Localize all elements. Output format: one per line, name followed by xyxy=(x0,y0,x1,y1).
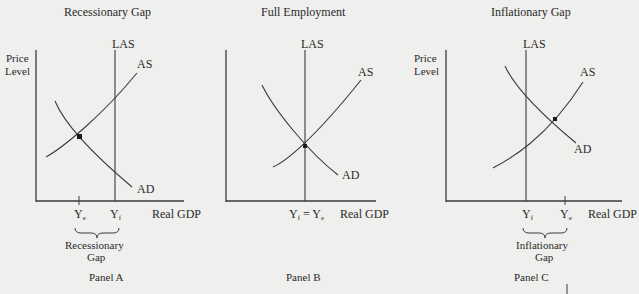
ad-label: AD xyxy=(342,169,359,181)
as-label: AS xyxy=(137,58,152,70)
as-label: AS xyxy=(358,66,373,78)
las-label: LAS xyxy=(523,38,546,50)
tick-yf-equals-ye: Yf = Ye xyxy=(289,208,324,222)
tick-yf: Yf xyxy=(522,208,533,222)
las-label: LAS xyxy=(112,38,135,50)
panel-b-caption: Panel B xyxy=(286,272,321,283)
x-axis-label: Real GDP xyxy=(152,208,201,220)
gap-label-line1: Inflationary xyxy=(516,240,568,251)
tick-ye: Ye xyxy=(74,208,86,222)
ad-label: AD xyxy=(137,183,154,195)
gap-label-line2: Gap xyxy=(87,252,105,263)
tick-ye: Ye xyxy=(560,208,572,222)
panel-b: Full Employment LAS AS AD Yf = Ye Real G… xyxy=(213,0,426,294)
gap-label-line2: Gap xyxy=(535,252,553,263)
panel-a: Recessionary Gap Price Level LAS AS AD Y… xyxy=(0,0,213,294)
tick-yf: Yf xyxy=(110,208,121,222)
as-label: AS xyxy=(580,66,595,78)
gap-label-line1: Recessionary xyxy=(65,240,124,251)
ad-label: AD xyxy=(574,143,591,155)
x-axis-label: Real GDP xyxy=(340,208,389,220)
panel-c: Inflationary Gap Price Level LAS AS AD Y… xyxy=(426,0,639,294)
panel-c-caption: Panel C xyxy=(514,272,549,283)
las-label: LAS xyxy=(301,38,324,50)
x-axis-label: Real GDP xyxy=(588,208,637,220)
panel-a-caption: Panel A xyxy=(89,272,124,283)
